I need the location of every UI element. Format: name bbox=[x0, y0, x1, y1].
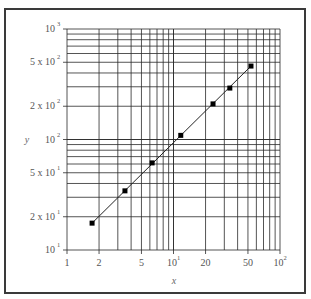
x-tick-label: 102 bbox=[273, 254, 286, 268]
x-axis-label: x bbox=[171, 275, 177, 286]
y-axis-label: y bbox=[24, 134, 30, 145]
x-tick-label: 1 bbox=[65, 257, 70, 268]
svg-text:1: 1 bbox=[57, 164, 60, 171]
data-point bbox=[90, 221, 95, 226]
x-tick-label: 101 bbox=[167, 254, 180, 268]
svg-text:2: 2 bbox=[57, 53, 60, 60]
x-tick-label: 5 bbox=[139, 257, 144, 268]
svg-text:2: 2 bbox=[57, 131, 60, 138]
log-log-chart: 1251012050102 1012 x 1015 x 1011022 x 10… bbox=[0, 0, 311, 299]
x-tick-label: 20 bbox=[201, 257, 211, 268]
y-tick-label: 10 bbox=[45, 134, 55, 145]
data-point bbox=[150, 160, 155, 165]
data-point bbox=[122, 188, 127, 193]
data-point bbox=[178, 133, 183, 138]
y-tick-label: 5 x 10 bbox=[30, 56, 55, 67]
y-tick-label: 10 bbox=[45, 244, 55, 255]
svg-text:1: 1 bbox=[57, 208, 60, 215]
y-tick-label: 2 x 10 bbox=[30, 100, 55, 111]
y-tick-label: 5 x 10 bbox=[30, 167, 55, 178]
x-tick-label: 2 bbox=[97, 257, 102, 268]
svg-text:1: 1 bbox=[57, 241, 60, 248]
data-point bbox=[211, 101, 216, 106]
svg-text:3: 3 bbox=[57, 20, 60, 27]
data-point bbox=[248, 64, 253, 69]
data-point bbox=[227, 86, 232, 91]
svg-text:2: 2 bbox=[57, 97, 60, 104]
y-axis-ticks: 1012 x 1015 x 1011022 x 1025 x 102103 bbox=[30, 20, 67, 255]
x-axis-ticks: 1251012050102 bbox=[65, 250, 287, 268]
y-tick-label: 2 x 10 bbox=[30, 211, 55, 222]
x-tick-label: 50 bbox=[243, 257, 253, 268]
y-tick-label: 10 bbox=[45, 23, 55, 34]
